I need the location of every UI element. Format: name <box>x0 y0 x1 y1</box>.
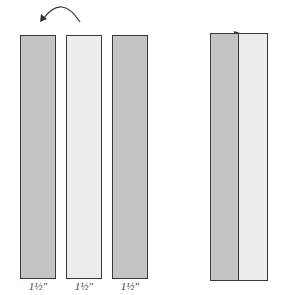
strip-1-width-label: 1½" <box>18 280 58 292</box>
sewn-strip-light <box>238 33 268 281</box>
strip-3 <box>112 35 148 279</box>
strip-2 <box>66 35 102 279</box>
strip-1 <box>20 35 56 279</box>
strip-2-width-label: 1½" <box>64 280 104 292</box>
strip-3-width-label: 1½" <box>110 280 150 292</box>
sewn-strip-dark <box>210 33 240 281</box>
